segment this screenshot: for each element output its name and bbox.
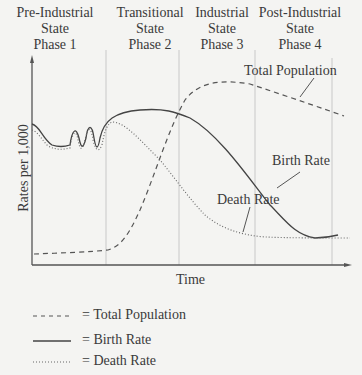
legend-death-rate: = Death Rate [82, 353, 156, 369]
total-population-leader [300, 78, 314, 97]
birth-rate-curve [32, 109, 338, 238]
y-axis-label: Rates per 1,000 [16, 118, 32, 218]
legend-total-population: = Total Population [82, 307, 186, 323]
death-rate-leader [243, 207, 250, 232]
death-rate-annotation: Death Rate [217, 192, 280, 208]
x-axis-label: Time [176, 272, 205, 288]
total-population-annotation: Total Population [244, 63, 337, 79]
x-axis-arrow-icon [344, 263, 352, 267]
y-axis-arrow-icon [30, 55, 34, 63]
birth-rate-leader [277, 172, 300, 188]
legend-birth-rate: = Birth Rate [82, 332, 151, 348]
birth-rate-annotation: Birth Rate [272, 153, 330, 169]
